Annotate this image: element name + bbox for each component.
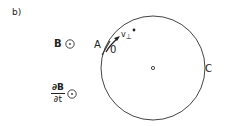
diagram-canvas [0,0,225,126]
point-A-label: A [94,40,101,50]
particle-icon [133,29,136,32]
velocity-label: v⊥ [121,31,132,41]
point-O-label: 0 [110,45,116,55]
orbit-label: C [205,64,212,74]
velocity-subscript: ⊥ [126,33,132,41]
center-point-icon [151,66,154,69]
panel-label: b) [12,8,21,17]
rate-denominator: ∂t [54,94,62,104]
orbit-circle [101,16,205,120]
rate-out-of-page-icon [68,90,76,98]
out-of-page-icon [66,40,74,48]
rate-numerator: ∂B [51,83,65,94]
rate-fraction: ∂B ∂t [51,83,65,105]
field-label: B [54,39,62,49]
